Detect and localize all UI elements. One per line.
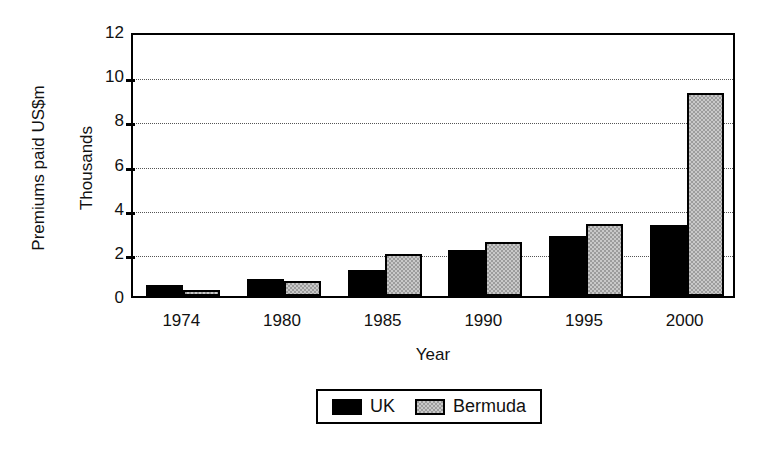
gridline: [133, 168, 733, 169]
bar-bermuda-2000[interactable]: [687, 93, 724, 296]
bar-group: [448, 35, 522, 296]
y-tick-mark: [126, 212, 135, 215]
y-tick-mark: [126, 256, 135, 259]
bar-bermuda-1974[interactable]: [183, 290, 220, 296]
bar-uk-1995[interactable]: [549, 236, 586, 296]
x-tick-label: 2000: [645, 311, 725, 331]
gridline: [133, 212, 733, 213]
legend-label-bermuda: Bermuda: [453, 396, 526, 417]
black-solid-swatch-icon: [332, 399, 362, 415]
bar-group: [650, 35, 724, 296]
x-tick-label: 1985: [343, 311, 423, 331]
y-tick-label: 2: [90, 245, 124, 262]
y-tick-label: 10: [90, 68, 124, 85]
legend-item-bermuda[interactable]: Bermuda: [415, 396, 526, 417]
gridline: [133, 79, 733, 80]
bar-bermuda-1995[interactable]: [586, 224, 623, 296]
bar-group: [247, 35, 321, 296]
x-tick-label: 1990: [443, 311, 523, 331]
gridline: [133, 256, 733, 257]
y-tick-label: 6: [90, 157, 124, 174]
bar-uk-1974[interactable]: [146, 285, 183, 296]
bar-group: [549, 35, 623, 296]
bar-group: [348, 35, 422, 296]
legend-item-uk[interactable]: UK: [332, 396, 395, 417]
bar-uk-1990[interactable]: [448, 250, 485, 296]
y-tick-label: 4: [90, 201, 124, 218]
bar-uk-1985[interactable]: [348, 270, 385, 297]
y-tick-label: 8: [90, 112, 124, 129]
y-tick-mark: [126, 79, 135, 82]
y-tick-label: 0: [90, 289, 124, 306]
gray-hatched-swatch-icon: [415, 399, 445, 415]
y-axis-tick-labels: 024681012: [88, 0, 124, 453]
x-tick-label: 1980: [242, 311, 322, 331]
bar-uk-2000[interactable]: [650, 225, 687, 296]
x-tick-label: 1995: [544, 311, 624, 331]
bar-bermuda-1990[interactable]: [485, 242, 522, 296]
x-tick-label: 1974: [141, 311, 221, 331]
x-axis-title: Year: [131, 345, 735, 365]
y-tick-mark: [126, 123, 135, 126]
chart-legend: UK Bermuda: [316, 389, 542, 424]
bar-uk-1980[interactable]: [247, 279, 284, 296]
y-tick-mark: [126, 168, 135, 171]
y-axis-title-primary: Premiums paid US$m: [29, 63, 49, 273]
bar-group: [146, 35, 220, 296]
legend-label-uk: UK: [370, 396, 395, 417]
bar-chart-figure: Premiums paid US$m Thousands 024681012 1…: [0, 0, 759, 453]
bar-bermuda-1985[interactable]: [385, 254, 422, 296]
y-tick-label: 12: [90, 24, 124, 41]
bar-bermuda-1980[interactable]: [284, 281, 321, 296]
plot-area: [131, 33, 735, 298]
gridline: [133, 123, 733, 124]
